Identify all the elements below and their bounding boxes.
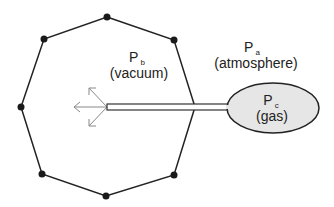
pa-symbol: P — [244, 39, 253, 55]
pc-symbol: P — [263, 92, 272, 108]
gas-arrows — [74, 88, 107, 126]
pb-symbol: P — [129, 49, 138, 65]
connecting-tube — [107, 104, 232, 110]
label-atmosphere: (atmosphere) — [214, 56, 297, 70]
label-vacuum: (vacuum) — [110, 66, 168, 80]
diagram-canvas — [0, 0, 334, 207]
label-gas: (gas) — [256, 109, 288, 123]
